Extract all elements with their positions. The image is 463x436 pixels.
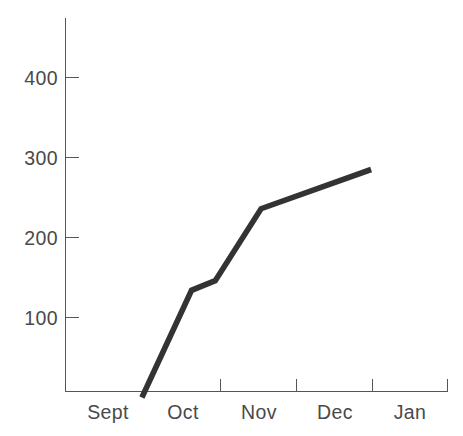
y-tick-label-400: 400 — [24, 67, 58, 89]
y-tick-label-100: 100 — [24, 307, 58, 329]
data-line-series — [142, 170, 371, 398]
x-tick-label-oct: Oct — [167, 401, 199, 423]
x-tick-label-sept: Sept — [87, 401, 129, 423]
line-chart: 400 300 200 100 Sept Oct Nov Dec Jan — [0, 0, 463, 436]
x-tick-label-dec: Dec — [317, 401, 353, 423]
y-tick-label-300: 300 — [24, 147, 58, 169]
chart-canvas: 400 300 200 100 Sept Oct Nov Dec Jan — [0, 0, 463, 436]
y-tick-marks — [66, 78, 79, 318]
x-tick-label-nov: Nov — [241, 401, 277, 423]
y-tick-label-200: 200 — [24, 227, 58, 249]
x-tick-marks — [66, 379, 448, 391]
x-tick-label-jan: Jan — [394, 401, 427, 423]
